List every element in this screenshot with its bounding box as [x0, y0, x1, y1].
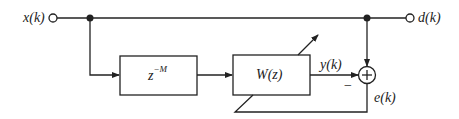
branch-to-delay: [90, 18, 119, 75]
filter-label: W(z): [256, 68, 282, 82]
output-label: y(k): [320, 58, 342, 72]
input-terminal: [49, 14, 57, 22]
error-label: e(k): [374, 91, 396, 105]
adaptation-arrow-icon: [298, 35, 318, 55]
delay-label: z−M: [148, 67, 167, 83]
desired-label: d(k): [418, 11, 441, 25]
input-label: x(k): [23, 11, 45, 25]
junction-dot-left: [87, 15, 94, 22]
minus-sign: −: [344, 79, 352, 93]
desired-terminal: [406, 14, 414, 22]
delay-label-exp: −M: [153, 64, 167, 74]
junction-dot-right: [364, 15, 371, 22]
